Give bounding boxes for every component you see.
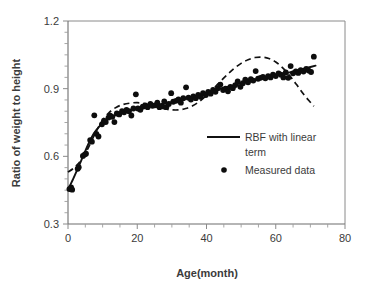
data-point bbox=[89, 139, 95, 145]
data-point bbox=[69, 187, 75, 193]
chart-background bbox=[0, 0, 385, 295]
data-point bbox=[308, 69, 314, 75]
data-point bbox=[133, 91, 139, 97]
data-point bbox=[283, 70, 289, 76]
x-tick-label: 60 bbox=[270, 232, 282, 244]
data-point bbox=[288, 63, 294, 69]
x-tick-label: 20 bbox=[131, 232, 143, 244]
data-point bbox=[253, 68, 259, 74]
y-tick-label: 0.9 bbox=[44, 83, 59, 95]
data-point bbox=[112, 119, 118, 125]
data-point bbox=[183, 84, 189, 90]
data-point bbox=[83, 151, 89, 157]
data-point bbox=[168, 90, 174, 96]
y-tick-label: 1.2 bbox=[44, 15, 59, 27]
legend-marker-swatch bbox=[221, 167, 227, 173]
data-point bbox=[180, 95, 186, 101]
chart-figure: 020406080 0.30.60.91.2 Age(month) Ratio … bbox=[0, 0, 385, 295]
data-point bbox=[76, 164, 82, 170]
data-point bbox=[96, 134, 102, 140]
legend-label-rbf-line2: term bbox=[245, 146, 266, 158]
data-point bbox=[128, 113, 134, 119]
x-tick-label: 80 bbox=[339, 232, 351, 244]
legend-label-rbf-line1: RBF with linear bbox=[245, 131, 317, 143]
y-axis-title: Ratio of weight to height bbox=[10, 59, 22, 188]
y-tick-label: 0.3 bbox=[44, 218, 59, 230]
x-axis-title: Age(month) bbox=[176, 267, 238, 279]
data-point bbox=[311, 54, 317, 60]
y-tick-label: 0.6 bbox=[44, 150, 59, 162]
x-tick-label: 40 bbox=[200, 232, 212, 244]
legend-label-measured: Measured data bbox=[245, 164, 315, 176]
data-point bbox=[235, 79, 241, 85]
data-point bbox=[285, 75, 291, 81]
x-tick-label: 0 bbox=[65, 232, 71, 244]
data-point bbox=[91, 112, 97, 118]
data-point bbox=[217, 82, 223, 88]
chart-canvas: 020406080 0.30.60.91.2 Age(month) Ratio … bbox=[0, 0, 385, 295]
